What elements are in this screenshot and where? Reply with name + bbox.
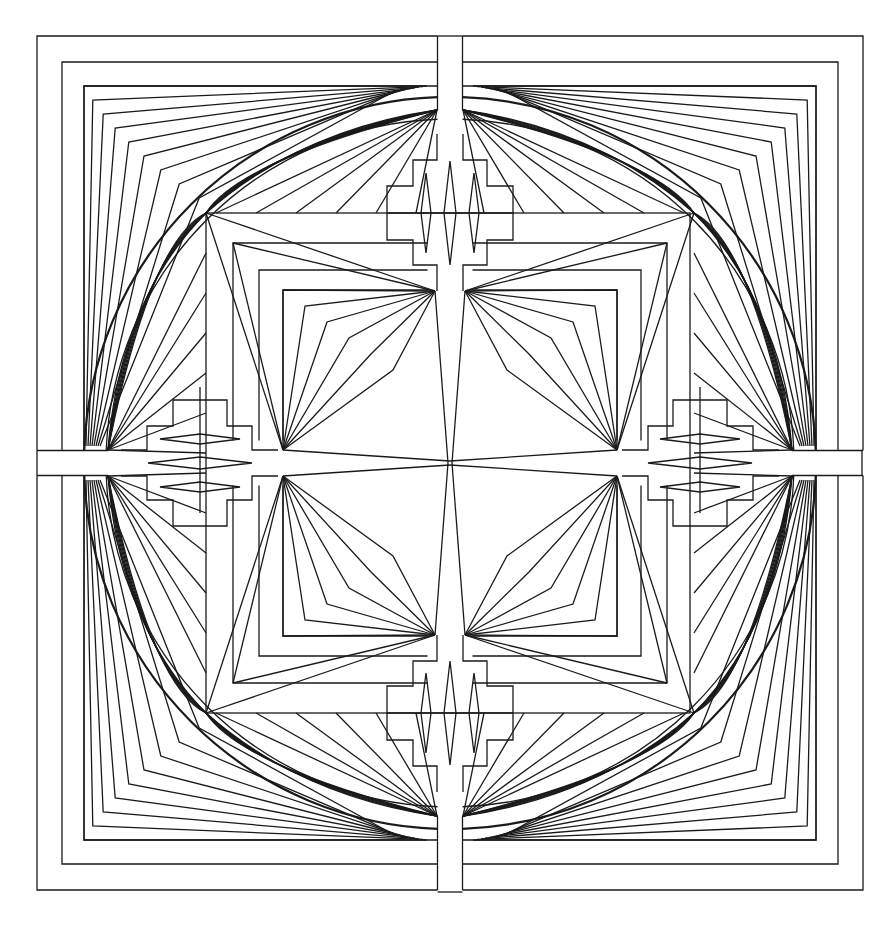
step-motifs — [121, 134, 779, 792]
circle-ring — [84, 97, 816, 829]
ray-fans — [84, 86, 816, 840]
mandala-artwork — [0, 0, 874, 943]
